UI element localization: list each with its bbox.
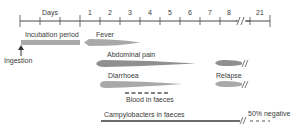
incubation-bar bbox=[21, 40, 80, 45]
axis-title: Days bbox=[42, 9, 58, 16]
diarrhoea-bar bbox=[100, 81, 182, 88]
fever-bar bbox=[84, 39, 140, 46]
relapse-label: Relapse bbox=[216, 72, 242, 79]
tick-label-4: 4 bbox=[148, 9, 152, 16]
relapse-abdominal-bar bbox=[215, 60, 242, 66]
campylobacters-label: Campylobacters in faeces bbox=[104, 111, 185, 118]
tick-label-5: 5 bbox=[168, 9, 172, 16]
diarrhoea-label: Diarrhoea bbox=[108, 72, 139, 79]
tick-label-7: 7 bbox=[208, 9, 212, 16]
ingestion-arrow-icon bbox=[18, 45, 24, 56]
time-axis bbox=[20, 15, 270, 27]
negative-label: 50% negative bbox=[248, 110, 290, 117]
tick-label-3: 3 bbox=[128, 9, 132, 16]
incubation-label: Incubation period bbox=[25, 31, 79, 38]
ingestion-label: Ingestion bbox=[4, 57, 32, 64]
tick-label-1: 1 bbox=[88, 9, 92, 16]
fever-label: Fever bbox=[96, 31, 114, 38]
tick-label-2: 2 bbox=[108, 9, 112, 16]
blood-label: Blood in faeces bbox=[126, 96, 174, 103]
abdominal-pain-label: Abdominal pain bbox=[107, 51, 155, 58]
relapse-diarrhoea-bar bbox=[215, 81, 242, 87]
tick-label-6: 6 bbox=[188, 9, 192, 16]
abdominal-pain-bar bbox=[96, 60, 196, 67]
tick-label-8: 8 bbox=[227, 9, 231, 16]
tick-label-21: 21 bbox=[256, 9, 264, 16]
